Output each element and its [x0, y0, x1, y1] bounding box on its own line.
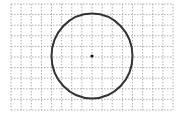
circle-grid-diagram: [0, 0, 176, 120]
center-point: [90, 54, 93, 57]
